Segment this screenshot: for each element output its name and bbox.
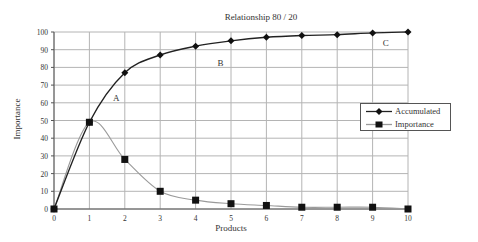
x-tick-label: 3 — [158, 214, 162, 223]
annotation-c: C — [383, 38, 389, 48]
y-tick-label: 70 — [41, 81, 49, 90]
y-tick-label: 50 — [41, 117, 49, 126]
y-tick-label: 60 — [41, 99, 49, 108]
x-tick-label: 9 — [371, 214, 375, 223]
annotation-a: A — [113, 93, 120, 103]
diamond-marker — [157, 52, 164, 59]
legend-label: Accumulated — [395, 106, 440, 116]
x-tick-label: 5 — [229, 214, 233, 223]
y-tick-label: 80 — [41, 63, 49, 72]
diamond-marker — [369, 29, 376, 36]
square-marker — [298, 204, 305, 211]
x-tick-label: 8 — [335, 214, 339, 223]
x-tick-label: 6 — [265, 214, 269, 223]
square-marker — [263, 202, 270, 209]
y-tick-label: 20 — [41, 170, 49, 179]
x-tick-label: 1 — [88, 214, 92, 223]
gridlines — [54, 32, 408, 209]
y-axis-label: Importance — [12, 89, 22, 149]
square-marker — [121, 156, 128, 163]
square-marker — [369, 204, 376, 211]
diamond-marker-icon — [366, 107, 392, 116]
diamond-marker — [405, 29, 412, 36]
y-tick-label: 0 — [44, 205, 48, 214]
y-axis-ticks: 0102030405060708090100 — [37, 28, 54, 214]
square-marker — [334, 204, 341, 211]
y-tick-label: 90 — [41, 46, 49, 55]
legend-label: Importance — [395, 119, 434, 129]
annotation-b: B — [217, 58, 223, 68]
diamond-marker — [192, 43, 199, 50]
chart-title: Relationship 80 / 20 — [186, 12, 336, 22]
diamond-marker — [263, 34, 270, 41]
y-tick-label: 30 — [41, 152, 49, 161]
square-marker — [228, 200, 235, 207]
x-tick-label: 2 — [123, 214, 127, 223]
x-axis-label: Products — [201, 223, 261, 233]
y-tick-label: 10 — [41, 187, 49, 196]
square-marker — [192, 197, 199, 204]
square-marker — [157, 188, 164, 195]
diamond-marker — [228, 37, 235, 44]
x-tick-label: 10 — [404, 214, 412, 223]
y-tick-label: 100 — [37, 28, 49, 37]
x-tick-label: 4 — [194, 214, 198, 223]
x-tick-label: 0 — [52, 214, 56, 223]
square-marker — [405, 206, 412, 213]
x-tick-label: 7 — [300, 214, 304, 223]
legend-item-accumulated: Accumulated — [361, 105, 450, 118]
square-marker-icon — [366, 120, 392, 129]
legend: Accumulated Importance — [360, 103, 451, 131]
diamond-marker — [298, 32, 305, 39]
x-axis-ticks: 012345678910 — [52, 214, 412, 223]
legend-item-importance: Importance — [361, 118, 450, 131]
y-tick-label: 40 — [41, 134, 49, 143]
